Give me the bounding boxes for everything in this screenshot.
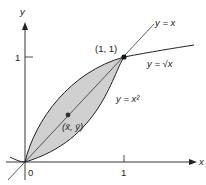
line-label: y = x — [154, 17, 177, 28]
y-axis-label: y — [19, 6, 26, 17]
sqrt-curve-label: y = √x — [146, 58, 174, 69]
intersection-label: (1, 1) — [95, 43, 117, 54]
parabola-curve-label: y = x² — [115, 93, 140, 104]
centroid-diagram: y x 0 1 1 (1, 1) y = x y = √x y = x² (x̄… — [0, 0, 206, 185]
y-tick-label: 1 — [15, 52, 20, 63]
centroid-label: (x̄, ȳ) — [62, 121, 83, 132]
x-tick-label: 1 — [121, 167, 126, 178]
x-axis-label: x — [198, 156, 205, 167]
intersection-point — [121, 54, 126, 59]
origin-label: 0 — [28, 167, 33, 178]
x-axis-arrow-icon — [189, 159, 197, 165]
centroid-point — [66, 113, 71, 118]
y-axis-arrow-icon — [22, 22, 28, 30]
